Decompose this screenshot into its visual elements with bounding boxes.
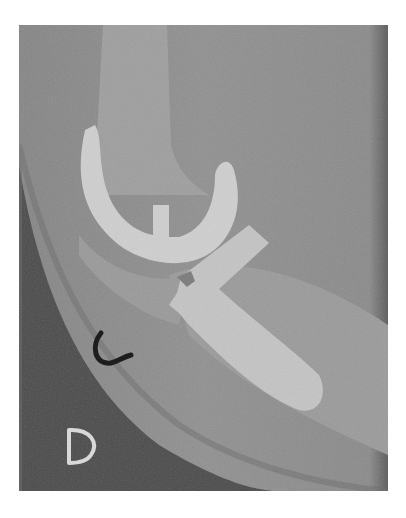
xray-graphic [19, 25, 388, 491]
xray-image [19, 25, 388, 491]
